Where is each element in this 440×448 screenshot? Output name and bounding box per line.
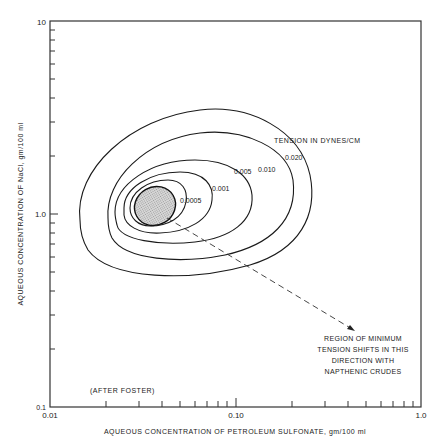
y-tick-0-1: 0.1	[36, 404, 46, 411]
contour-chart: 10 1.0 0.1 0.01 0.10 1.0 AQUEOUS CONCENT…	[0, 0, 440, 448]
note-line-1: REGION OF MINIMUM	[324, 335, 402, 342]
note-line-2: TENSION SHIFTS IN THIS	[317, 346, 408, 353]
note-line-4: NAPTHENIC CRUDES	[325, 368, 402, 375]
y-axis-title: AQUEOUS CONCENTRATION OF NaCl, gm/100 ml	[17, 122, 25, 305]
y-ticks	[50, 30, 58, 349]
contour-0-010	[108, 132, 294, 259]
annotation-note: REGION OF MINIMUM TENSION SHIFTS IN THIS…	[317, 335, 408, 375]
y-tick-10: 10	[37, 18, 46, 27]
x-ticks	[106, 398, 413, 407]
note-line-3: DIRECTION WITH	[332, 357, 395, 364]
arrow-head	[347, 325, 355, 331]
label-0-001: 0.001	[212, 185, 230, 192]
shift-arrow	[167, 218, 352, 329]
label-0-020: 0.020	[285, 154, 303, 161]
source-note: (AFTER FOSTER)	[90, 387, 155, 395]
contours	[80, 109, 312, 276]
minimum-region	[127, 179, 182, 233]
label-0-0005: 0.0005	[180, 197, 202, 204]
x-tick-1-0: 1.0	[415, 411, 427, 420]
x-tick-0-01: 0.01	[42, 411, 58, 420]
label-0-005: 0.005	[234, 168, 252, 175]
legend-title: TENSION IN DYNES/CM	[274, 137, 361, 144]
x-axis-title: AQUEOUS CONCENTRATION OF PETROLEUM SULFO…	[104, 428, 366, 436]
label-0-010: 0.010	[258, 166, 276, 173]
x-tick-0-10: 0.10	[228, 411, 244, 420]
y-tick-1: 1.0	[35, 210, 47, 219]
